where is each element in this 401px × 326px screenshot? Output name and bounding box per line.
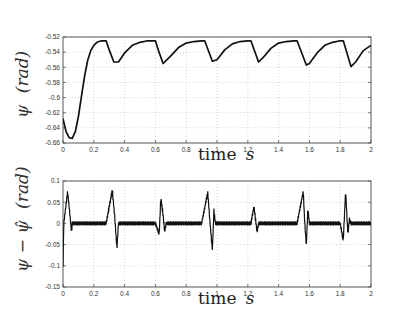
bottom-ylabel-symbol: ψ − ψ̂ <box>12 220 32 272</box>
x-tick-label: 1.6 <box>305 290 314 297</box>
x-tick-label: 0.8 <box>182 290 191 297</box>
top-ylabel-unit: (rad) <box>12 51 32 93</box>
x-tick-label: 0.4 <box>120 146 129 153</box>
x-tick-label: 0 <box>61 146 65 153</box>
top-xlabel: time s <box>198 144 255 164</box>
x-tick-label: 1.4 <box>274 146 283 153</box>
figure: 00.20.40.60.811.21.41.61.82-0.52-0.54-0.… <box>0 0 401 326</box>
x-tick-label: 1.8 <box>336 290 345 297</box>
y-tick-label: 0.05 <box>47 199 60 206</box>
x-tick-label: 2 <box>369 146 373 153</box>
top-xlabel-unit: s <box>246 144 255 164</box>
x-tick-label: 2 <box>369 290 373 297</box>
x-tick-label: 1.8 <box>336 146 345 153</box>
y-tick-label: -0.6 <box>49 94 61 101</box>
y-tick-label: -0.52 <box>45 33 60 40</box>
y-tick-label: -0.62 <box>45 109 60 116</box>
y-tick-label: -0.56 <box>45 64 60 71</box>
bottom-ylabel: ψ − ψ̂ (rad) <box>12 166 32 272</box>
x-tick-label: 1.6 <box>305 146 314 153</box>
top-ylabel-symbol: ψ <box>12 104 32 118</box>
series-line-error <box>63 190 371 267</box>
bottom-ylabel-unit: (rad) <box>12 166 32 208</box>
x-tick-label: 0.2 <box>89 146 98 153</box>
x-tick-label: 0.8 <box>182 146 191 153</box>
top-ylabel: ψ (rad) <box>12 51 32 118</box>
y-tick-label: -0.64 <box>45 124 60 131</box>
y-tick-label: -0.66 <box>45 139 60 146</box>
top-xlabel-word: time <box>198 144 236 164</box>
x-tick-label: 0.4 <box>120 290 129 297</box>
y-tick-label: -0.54 <box>45 48 60 55</box>
y-tick-label: -0.58 <box>45 79 60 86</box>
x-tick-label: 0 <box>61 290 65 297</box>
bottom-xlabel: time s <box>198 288 255 308</box>
bottom-plot-error: 00.20.40.60.811.21.41.61.820.10.050-0.05… <box>45 177 373 297</box>
bottom-xlabel-word: time <box>198 288 236 308</box>
y-tick-label: -0.05 <box>45 241 60 248</box>
y-tick-label: -0.1 <box>49 262 61 269</box>
top-plot-psi: 00.20.40.60.811.21.41.61.82-0.52-0.54-0.… <box>45 33 373 153</box>
y-tick-label: 0 <box>56 220 60 227</box>
x-tick-label: 0.2 <box>89 290 98 297</box>
x-tick-label: 0.6 <box>151 290 160 297</box>
y-tick-label: 0.1 <box>51 177 60 184</box>
bottom-xlabel-unit: s <box>246 288 255 308</box>
x-tick-label: 0.6 <box>151 146 160 153</box>
y-tick-label: -0.15 <box>45 283 60 290</box>
x-tick-label: 1.4 <box>274 290 283 297</box>
